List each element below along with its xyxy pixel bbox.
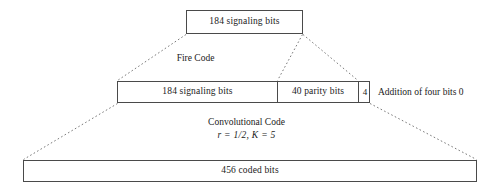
- block-456-coded-bits-output: 456 coded bits: [23, 160, 477, 182]
- block-184-signaling-bits-input: 184 signaling bits: [186, 10, 303, 34]
- segment-parity-bits: 40 parity bits: [278, 82, 359, 102]
- annotation-addition-of-four-bits: Addition of four bits 0: [378, 87, 464, 97]
- stage-label-convolutional-code-title: Convolutional Code: [0, 116, 496, 129]
- segment-signaling-bits-label: 184 signaling bits: [162, 87, 232, 97]
- segment-tail-bits: 4: [359, 82, 371, 102]
- stage-label-fire-code: Fire Code: [0, 52, 445, 65]
- block-bottom-label: 456 coded bits: [221, 166, 279, 176]
- segment-signaling-bits: 184 signaling bits: [118, 82, 278, 102]
- block-fire-code-output: 184 signaling bits 40 parity bits 4: [117, 81, 370, 103]
- stage-label-convolutional-code-params: r = 1/2, K = 5: [0, 129, 496, 142]
- coding-chain-diagram: 184 signaling bits Fire Code 184 signali…: [0, 0, 499, 193]
- segment-tail-bits-label: 4: [363, 88, 368, 97]
- stage-label-convolutional-code: Convolutional Code r = 1/2, K = 5: [0, 116, 496, 142]
- block-top-label: 184 signaling bits: [209, 17, 279, 27]
- segment-parity-bits-label: 40 parity bits: [292, 87, 344, 97]
